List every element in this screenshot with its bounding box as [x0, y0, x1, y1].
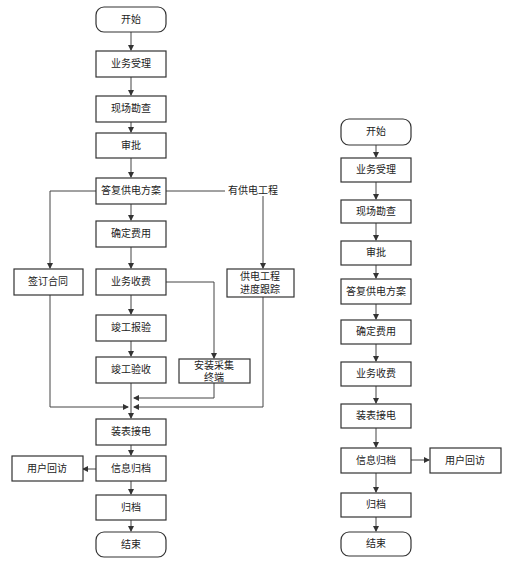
node-label: 竣工报验 — [111, 321, 151, 333]
left-node-end: 结束 — [96, 532, 166, 557]
node-label: 归档 — [366, 498, 386, 510]
right-node-confirm-fee: 确定费用 — [341, 320, 411, 344]
right-flowchart: 开始 业务受理 现场勘查 审批 答复供电方案 确定费用 业务收费 装表接电 — [341, 119, 501, 556]
left-node-project-track: 供电工程 进度跟踪 — [227, 269, 294, 297]
branch-label: 有供电工程 — [228, 184, 278, 196]
left-flowchart: 开始 业务受理 现场勘查 审批 答复供电方案 有供电工程 确定费用 签订合同 — [12, 7, 294, 557]
left-node-accept: 业务受理 — [96, 51, 166, 77]
flowcharts: 开始 业务受理 现场勘查 审批 答复供电方案 有供电工程 确定费用 签订合同 — [0, 0, 512, 570]
right-node-accept: 业务受理 — [341, 158, 411, 182]
left-node-customer-visit: 用户回访 — [12, 456, 83, 481]
node-label: 进度跟踪 — [240, 283, 280, 295]
right-node-end: 结束 — [341, 532, 411, 556]
node-label: 供电工程 — [240, 270, 280, 282]
node-label: 签订合同 — [28, 275, 68, 287]
left-node-archive: 归档 — [96, 495, 166, 520]
left-node-reply-plan: 答复供电方案 — [96, 178, 166, 204]
right-node-start: 开始 — [341, 119, 411, 145]
left-node-start: 开始 — [96, 7, 166, 32]
node-label: 用户回访 — [27, 462, 67, 474]
node-label: 用户回访 — [445, 454, 485, 466]
node-label: 确定费用 — [356, 325, 396, 337]
node-label: 确定费用 — [111, 227, 151, 239]
node-label: 归档 — [121, 501, 141, 513]
right-node-survey: 现场勘查 — [341, 200, 411, 223]
node-label: 结束 — [366, 537, 386, 549]
node-label: 审批 — [121, 139, 141, 151]
node-label: 装表接电 — [111, 425, 151, 437]
node-label: 结束 — [121, 538, 141, 550]
node-label: 现场勘查 — [111, 102, 151, 114]
left-node-sign-contract: 签订合同 — [14, 269, 83, 295]
left-node-collect-fee: 业务收费 — [96, 269, 166, 295]
left-node-meter-install: 装表接电 — [96, 419, 166, 445]
right-node-info-archive: 信息归档 — [341, 448, 411, 473]
right-node-meter-install: 装表接电 — [341, 404, 411, 428]
left-node-survey: 现场勘查 — [96, 96, 166, 122]
node-label: 业务收费 — [356, 367, 396, 379]
node-label: 信息归档 — [356, 454, 396, 466]
left-node-install-terminal: 安装采集 终端 — [179, 359, 250, 383]
node-label: 审批 — [366, 246, 386, 258]
right-node-archive: 归档 — [341, 493, 411, 517]
node-label: 现场勘查 — [356, 205, 396, 217]
left-node-completion-check: 竣工验收 — [96, 357, 166, 383]
node-label: 答复供电方案 — [101, 184, 161, 196]
node-label: 开始 — [366, 125, 386, 137]
node-label: 装表接电 — [356, 409, 396, 421]
node-label: 安装采集 — [194, 359, 234, 371]
right-node-approve: 审批 — [341, 241, 411, 265]
left-node-approve: 审批 — [96, 133, 166, 158]
node-label: 业务受理 — [356, 163, 396, 175]
node-label: 业务收费 — [111, 275, 151, 287]
node-label: 竣工验收 — [111, 363, 151, 375]
left-node-confirm-fee: 确定费用 — [96, 221, 166, 247]
node-label: 答复供电方案 — [346, 285, 406, 297]
node-label: 信息归档 — [111, 462, 151, 474]
right-node-collect-fee: 业务收费 — [341, 362, 411, 386]
node-label: 业务受理 — [111, 57, 151, 69]
node-label: 开始 — [121, 13, 141, 25]
left-node-completion-report: 竣工报验 — [96, 315, 166, 341]
left-node-info-archive: 信息归档 — [96, 456, 166, 481]
node-label: 终端 — [204, 371, 224, 383]
right-node-customer-visit: 用户回访 — [430, 448, 501, 473]
right-node-reply-plan: 答复供电方案 — [341, 279, 411, 304]
